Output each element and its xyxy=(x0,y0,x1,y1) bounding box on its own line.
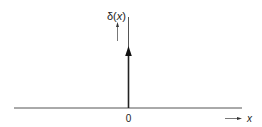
delta-function-diagram: δ(x) 0 x xyxy=(0,0,262,127)
function-label: δ(x) xyxy=(107,10,126,22)
origin-label: 0 xyxy=(126,113,132,124)
label-up-arrow-icon xyxy=(116,22,119,27)
x-direction-arrow-icon xyxy=(237,117,242,120)
impulse-arrowhead-icon xyxy=(125,46,132,56)
x-axis-label: x xyxy=(246,113,253,124)
